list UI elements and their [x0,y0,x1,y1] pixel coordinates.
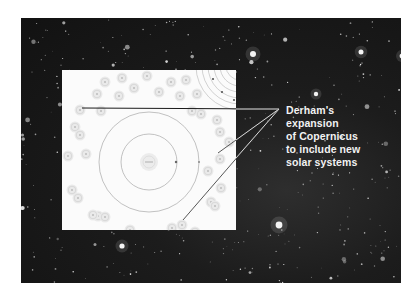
neighbor-star-systems [63,71,235,231]
caption-text: Derham's expansion of Copernicus to incl… [286,104,360,169]
caption-line: expansion [286,117,360,130]
corner-planets [212,78,235,101]
copernican-diagram-inset [62,70,236,230]
corner-orbit-arcs [196,70,236,110]
caption-line: Derham's [286,104,360,117]
caption-line: to include new [286,143,360,156]
caption-line: of Copernicus [286,130,360,143]
caption-line: solar systems [286,156,360,169]
solar-systems-diagram [62,70,236,230]
planet-inner [175,161,177,163]
planet-outer [198,161,200,163]
central-sun [140,153,158,171]
